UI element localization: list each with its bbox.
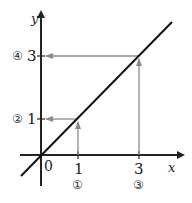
graph-canvas: y x 0 1 ① 3 ③ ② 1 ④ 3 bbox=[0, 0, 192, 203]
y-tick-label-1: 1 bbox=[27, 110, 37, 128]
y-tick-label-3: 3 bbox=[27, 47, 37, 65]
x-axis-label: x bbox=[168, 160, 176, 175]
y-axis-label: y bbox=[30, 11, 39, 26]
x-tick-marker-3: ③ bbox=[133, 178, 144, 192]
line-y-equals-x bbox=[21, 22, 172, 176]
x-tick-marker-1: ① bbox=[72, 178, 83, 192]
y-tick-marker-4: ④ bbox=[12, 49, 23, 63]
x-tick-label-3: 3 bbox=[134, 160, 144, 178]
origin-label: 0 bbox=[44, 158, 53, 174]
y-tick-marker-2: ② bbox=[12, 112, 23, 126]
x-tick-label-1: 1 bbox=[74, 160, 84, 178]
